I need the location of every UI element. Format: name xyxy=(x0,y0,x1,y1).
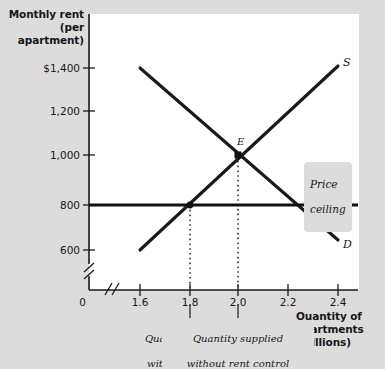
price-ceiling-callout-line-2: ceiling xyxy=(310,203,346,216)
equilibrium-point-marker xyxy=(235,152,242,159)
annotation-quantity-supplied-without-rent-control: Quantity supplied without rent control xyxy=(162,320,314,369)
x-axis-break-mark-left xyxy=(105,283,112,295)
x-tick-label-2-0: 2.0 xyxy=(216,296,260,308)
y-tick-label-800: 800 xyxy=(16,199,80,211)
y-tick-label-1400: $1,400 xyxy=(16,62,80,74)
origin-label: 0 xyxy=(72,296,86,308)
y-axis-title: Monthly rent (per apartment) xyxy=(0,8,84,47)
annotation-without-control-line-2: without rent control xyxy=(162,358,314,369)
y-tick-label-1200: 1,200 xyxy=(16,105,80,117)
x-tick-label-2-4: 2.4 xyxy=(316,296,360,308)
y-axis-title-line-1: Monthly rent xyxy=(0,8,84,21)
supply-curve-label: S xyxy=(343,56,351,69)
equilibrium-point-label: E xyxy=(237,136,244,147)
y-tick-label-1000: 1,000 xyxy=(16,149,80,161)
rent-control-chart-figure: Monthly rent (per apartment) Quantity of… xyxy=(0,0,385,369)
price-ceiling-callout-line-1: Price xyxy=(310,178,346,191)
x-tick-label-1-6: 1.6 xyxy=(118,296,162,308)
y-axis-title-line-2: (per apartment) xyxy=(0,21,84,47)
price-ceiling-callout: Price ceiling xyxy=(304,162,352,232)
x-tick-label-1-8: 1.8 xyxy=(168,296,212,308)
demand-curve-label: D xyxy=(343,238,352,251)
y-tick-label-600: 600 xyxy=(16,244,80,256)
x-axis-break-mark-right xyxy=(112,283,119,295)
quantity-supplied-with-control-marker xyxy=(187,202,194,209)
annotation-without-control-line-1: Quantity supplied xyxy=(162,333,314,346)
x-tick-label-2-2: 2.2 xyxy=(266,296,310,308)
